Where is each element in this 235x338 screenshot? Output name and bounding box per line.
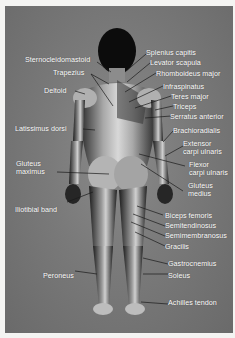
- label-gluteus-maximus-line2: maximus: [16, 168, 45, 176]
- label-flexor-carpi-ulnaris: Flexor carpi ulnaris: [189, 161, 228, 177]
- label-gastrocnemius: Gastrocnemius: [168, 260, 216, 268]
- label-brachioradialis: Brachioradialis: [173, 127, 220, 135]
- label-soleus: Soleus: [168, 272, 190, 280]
- label-gluteus-maximus: Gluteus maximus: [16, 160, 45, 176]
- label-biceps-femoris: Biceps femoris: [165, 212, 212, 220]
- label-extensor-carpi-ulnaris: Extensor carpi ulnaris: [183, 140, 222, 156]
- label-levator-scapula: Levator scapula: [150, 59, 201, 67]
- label-infraspinatus: Infraspinatus: [163, 83, 204, 91]
- label-peroneus: Peroneus: [43, 272, 74, 280]
- label-extensor-carpi-ulnaris-line2: carpi ulnaris: [183, 148, 222, 156]
- label-trapezius: Trapezius: [53, 69, 84, 77]
- label-semitendinosus: Semitendinosus: [165, 222, 216, 230]
- label-teres-major: Teres major: [171, 93, 209, 101]
- label-achilles-tendon: Achilles tendon: [168, 299, 217, 307]
- label-flexor-carpi-ulnaris-line2: carpi ulnaris: [189, 169, 228, 177]
- label-triceps: Triceps: [173, 103, 196, 111]
- anatomy-photo: Sternocleidomastoid Trapezius Deltoid La…: [5, 6, 233, 333]
- label-gluteus-medius-line2: medius: [188, 190, 213, 198]
- label-splenius-capitis: Splenius capitis: [146, 49, 196, 57]
- label-latissimus-dorsi: Latissimus dorsi: [15, 125, 67, 133]
- label-semimembranosus: Semimembranosus: [165, 232, 227, 240]
- label-gracilis: Gracilis: [165, 243, 189, 251]
- label-gluteus-medius: Gluteus medius: [188, 182, 213, 198]
- label-rhomboideus-major: Rhomboideus major: [156, 70, 220, 78]
- label-deltoid: Deltoid: [44, 87, 66, 95]
- label-sternocleidomastoid: Sternocleidomastoid: [25, 56, 90, 64]
- label-iliotibial-band: Iliotibial band: [15, 206, 57, 214]
- label-serratus-anterior: Serratus anterior: [170, 113, 224, 121]
